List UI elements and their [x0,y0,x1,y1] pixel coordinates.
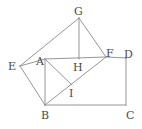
segment-G-F [79,18,106,57]
vertex-label-I: I [69,88,73,99]
segment-A-F [45,57,106,59]
vertex-label-G: G [74,6,83,17]
segment-E-B [20,66,45,105]
vertex-label-F: F [106,48,114,59]
vertex-label-A: A [36,56,44,67]
geometry-canvas [0,0,142,129]
geometry-figure: G E A F D H I B C [0,0,142,129]
vertex-label-B: B [41,110,49,121]
vertex-label-H: H [73,62,83,73]
vertex-label-D: D [124,49,133,60]
vertex-label-C: C [126,110,134,121]
segment-A-I [45,59,72,85]
vertex-label-E: E [8,61,16,72]
